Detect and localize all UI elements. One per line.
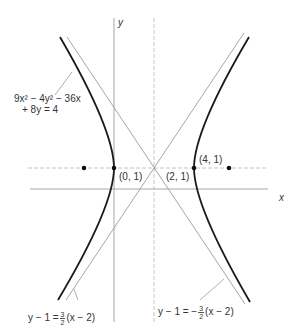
asymptote-right-fraction: 32 bbox=[198, 305, 204, 320]
x-axis-label: x bbox=[279, 193, 284, 203]
focus-left-point bbox=[82, 166, 87, 171]
equation-label-line1: 9x² − 4y² − 36x bbox=[14, 94, 81, 104]
asymptote-left-rhs: (x − 2) bbox=[66, 312, 95, 323]
asymptote-left-lhs: y − 1 = bbox=[28, 312, 59, 323]
vertex-left-point bbox=[112, 166, 117, 171]
focus-right-point bbox=[227, 166, 232, 171]
asymptote-right-leader-line bbox=[200, 279, 224, 300]
asymptote-left-leader-line bbox=[74, 289, 78, 300]
asymptote-right-rhs: (x − 2) bbox=[205, 306, 234, 317]
point-label-4-1: (4, 1) bbox=[199, 155, 222, 165]
asymptote-negative-slope bbox=[67, 37, 245, 304]
point-label-2-1: (2, 1) bbox=[166, 172, 189, 182]
point-label-0-1: (0, 1) bbox=[119, 172, 142, 182]
equation-label-line2: + 8y = 4 bbox=[22, 105, 58, 115]
hyperbola-diagram bbox=[0, 0, 297, 336]
equation-leader-line bbox=[55, 72, 72, 95]
asymptote-left-fraction: 32 bbox=[60, 311, 66, 326]
vertex-right-point bbox=[192, 166, 197, 171]
asymptote-left-label: y − 1 =32(x − 2) bbox=[28, 311, 95, 326]
y-axis-label: y bbox=[118, 18, 123, 28]
asymptote-positive-slope bbox=[66, 33, 244, 300]
asymptote-right-label: y − 1 = −32(x − 2) bbox=[158, 305, 234, 320]
asymptote-right-lhs: y − 1 = − bbox=[158, 306, 197, 317]
hyperbola-right-branch bbox=[194, 37, 250, 302]
